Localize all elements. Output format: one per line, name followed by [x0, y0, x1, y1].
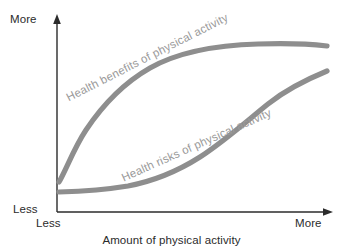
x-axis-title: Amount of physical activity [0, 234, 343, 246]
x-axis-label-less: Less [36, 217, 61, 229]
y-axis-label-more: More [10, 13, 37, 25]
y-axis-label-less: Less [13, 203, 38, 215]
x-axis-arrowhead [323, 208, 333, 216]
y-axis-arrowhead [53, 14, 61, 24]
x-axis-label-more: More [295, 217, 322, 229]
chart-figure: More Less Less More Amount of physical a… [0, 0, 343, 252]
curve-health-risks [59, 71, 327, 192]
